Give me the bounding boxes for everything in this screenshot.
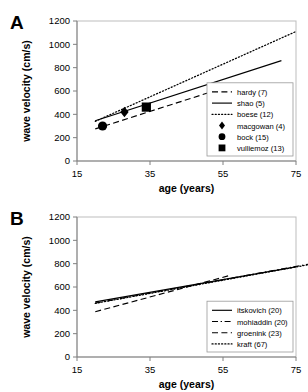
x-axis-title: age (years)	[159, 378, 214, 390]
legend-label-1: mohiaddin (20)	[237, 318, 288, 327]
legend-label-0: itskovich (20)	[237, 306, 282, 315]
y-tick-label: 200	[54, 328, 70, 339]
legend-swatch-5-square	[219, 145, 226, 152]
y-axis-title: wave velocity (cm/s)	[20, 236, 32, 339]
y-tick-label: 1200	[49, 211, 70, 222]
y-tick-label: 1200	[49, 15, 70, 26]
panel-a-chart: 02004006008001000120015355575age (years)…	[0, 0, 308, 196]
x-tick-label: 75	[291, 168, 302, 179]
y-tick-label: 400	[54, 109, 70, 120]
panel-b-letter: B	[10, 208, 24, 230]
legend-label-2: boese (12)	[237, 110, 274, 119]
legend-label-3: macgowan (4)	[237, 122, 286, 131]
series-marker-4-circle	[98, 121, 107, 130]
series-marker-3-diamond	[120, 107, 128, 117]
legend-label-4: bock (15)	[237, 133, 269, 142]
x-tick-label: 15	[72, 364, 83, 375]
x-tick-label: 75	[291, 364, 302, 375]
figure-container: A 02004006008001000120015355575age (year…	[0, 0, 308, 392]
legend-label-0: hardy (7)	[237, 88, 268, 97]
y-tick-label: 1000	[49, 39, 70, 50]
y-tick-label: 600	[54, 281, 70, 292]
y-axis-title: wave velocity (cm/s)	[20, 40, 32, 143]
y-tick-label: 1000	[49, 235, 70, 246]
y-tick-label: 400	[54, 305, 70, 316]
panel-a-letter: A	[10, 12, 24, 34]
x-tick-label: 55	[218, 364, 229, 375]
series-marker-5-square	[142, 103, 151, 112]
x-tick-label: 15	[72, 168, 83, 179]
legend-label-5: vulliemoz (13)	[237, 144, 285, 153]
panel-a: A 02004006008001000120015355575age (year…	[0, 0, 308, 196]
y-tick-label: 0	[65, 155, 70, 166]
legend-label-2: groenink (23)	[237, 329, 282, 338]
legend-swatch-4-circle	[219, 133, 226, 140]
y-tick-label: 600	[54, 85, 70, 96]
legend-label-3: kraft (67)	[237, 340, 268, 349]
y-tick-label: 0	[65, 351, 70, 362]
panel-b: B 02004006008001000120015355575age (year…	[0, 196, 308, 392]
x-tick-label: 35	[145, 168, 156, 179]
y-tick-label: 800	[54, 258, 70, 269]
x-tick-label: 55	[218, 168, 229, 179]
x-axis-title: age (years)	[159, 182, 214, 194]
y-tick-label: 200	[54, 132, 70, 143]
legend-label-1: shao (5)	[237, 99, 265, 108]
y-tick-label: 800	[54, 62, 70, 73]
panel-b-chart: 02004006008001000120015355575age (years)…	[0, 196, 308, 392]
x-tick-label: 35	[145, 364, 156, 375]
